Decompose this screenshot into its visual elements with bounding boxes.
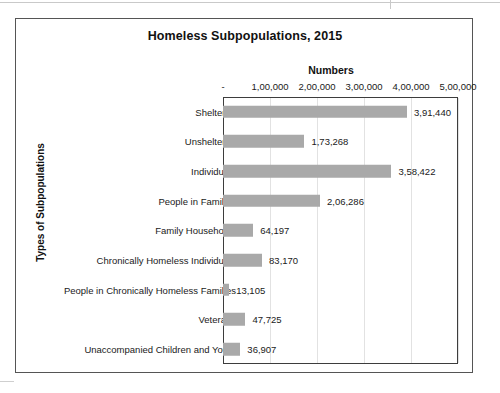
- bar: [223, 135, 304, 148]
- chart-title: Homeless Subpopulations, 2015: [16, 29, 474, 43]
- bar: [223, 195, 320, 208]
- bar: [223, 224, 253, 237]
- bar-value-label: 13,105: [236, 284, 265, 295]
- x-axis-title: Numbers: [206, 64, 456, 76]
- bar-value-label: 36,907: [247, 344, 276, 355]
- bar-row: Veterans47,725: [16, 305, 474, 335]
- bar-value-label: 3,58,422: [398, 166, 435, 177]
- chart-container: Homeless Subpopulations, 2015 Numbers Ty…: [15, 18, 473, 373]
- bar: [223, 343, 240, 356]
- bar: [223, 313, 245, 326]
- bar-rows: Sheltered3,91,440Unsheltered1,73,268Indi…: [16, 97, 474, 364]
- bar-value-label: 1,73,268: [311, 136, 348, 147]
- bar: [223, 106, 407, 119]
- x-axis-tick-3: 3,00,000: [346, 81, 383, 92]
- bar-value-label: 2,06,286: [327, 195, 364, 206]
- x-axis-tick-labels: -1,00,0002,00,0003,00,0004,00,0005,00,00…: [16, 81, 474, 95]
- x-axis-tick-4: 4,00,000: [393, 81, 430, 92]
- bar-row: Sheltered3,91,440: [16, 97, 474, 127]
- x-axis-tick-5: 5,00,000: [440, 81, 477, 92]
- bar: [223, 165, 391, 178]
- bar-row: Chronically Homeless Individuals83,170: [16, 245, 474, 275]
- bar: [223, 254, 262, 267]
- page-edge-line-bottom: [0, 381, 14, 382]
- bar-value-label: 64,197: [260, 225, 289, 236]
- bar-row: People in Chronically Homeless Families1…: [16, 275, 474, 305]
- bar-value-label: 3,91,440: [414, 106, 451, 117]
- bar-row: Unsheltered1,73,268: [16, 127, 474, 157]
- category-label: People in Chronically Homeless Families: [64, 284, 236, 295]
- bar-value-label: 83,170: [269, 255, 298, 266]
- bar-row: Family Households64,197: [16, 216, 474, 246]
- x-axis-tick-1: 1,00,000: [252, 81, 289, 92]
- bar-value-label: 47,725: [252, 314, 281, 325]
- category-label: Unaccompanied Children and Youth: [84, 344, 236, 355]
- bar-row: People in Families2,06,286: [16, 186, 474, 216]
- page-edge-line-top: [0, 2, 500, 3]
- x-axis-tick-0: -: [221, 81, 224, 92]
- bar-row: Unaccompanied Children and Youth36,907: [16, 334, 474, 364]
- bar: [223, 284, 229, 297]
- page-edge-line-corner: [390, 0, 391, 9]
- bar-row: Individuals3,58,422: [16, 156, 474, 186]
- x-axis-tick-2: 2,00,000: [299, 81, 336, 92]
- category-label: Chronically Homeless Individuals: [97, 255, 236, 266]
